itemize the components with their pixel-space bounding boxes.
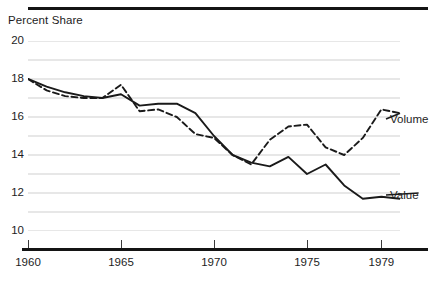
x-axis-tick-mark xyxy=(28,240,29,248)
series-lines xyxy=(28,79,400,199)
y-axis-tick-label: 10 xyxy=(11,225,24,237)
x-axis-tick-mark xyxy=(307,240,308,248)
x-axis-tick-label: 1965 xyxy=(108,256,134,268)
series-line-volume xyxy=(28,79,400,165)
plot-area xyxy=(28,41,400,231)
x-axis-tick-label: 1960 xyxy=(15,256,41,268)
x-axis-tick-mark xyxy=(214,240,215,248)
y-axis-tick-label: 20 xyxy=(11,35,24,47)
top-border-rule xyxy=(28,7,428,10)
x-axis-tick-label: 1979 xyxy=(369,256,395,268)
series-label-volume: Volume xyxy=(390,113,428,125)
y-axis-tick-label: 16 xyxy=(11,111,24,123)
chart-figure: Percent Share 101214161820 1960196519701… xyxy=(0,0,435,281)
y-axis-tick-label: 12 xyxy=(11,187,24,199)
x-axis-tick-label: 1970 xyxy=(201,256,227,268)
x-axis-tick-mark xyxy=(121,240,122,248)
x-axis-rule xyxy=(22,248,428,251)
y-axis-tick-label: 14 xyxy=(11,149,24,161)
y-axis-tick-label: 18 xyxy=(11,73,24,85)
plot-svg xyxy=(28,41,400,231)
y-axis-labels: 101214161820 xyxy=(0,0,24,281)
x-axis-tick-mark xyxy=(381,240,382,248)
series-label-value: Value xyxy=(390,189,419,201)
x-axis-tick-label: 1975 xyxy=(294,256,320,268)
series-line-value xyxy=(28,79,400,199)
